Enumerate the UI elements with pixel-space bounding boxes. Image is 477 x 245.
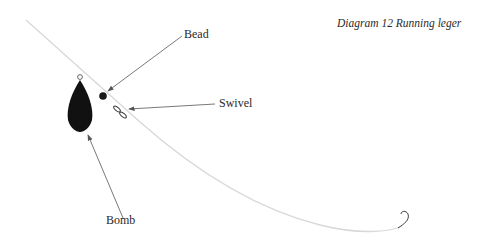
bead-icon — [99, 92, 107, 100]
bead-arrow — [108, 36, 182, 91]
hook-icon — [398, 211, 408, 228]
bomb-weight-icon — [68, 80, 93, 132]
swivel-label: Swivel — [219, 96, 252, 111]
swivel-icon — [113, 105, 127, 119]
diagram-caption: Diagram 12 Running leger — [337, 17, 461, 29]
running-leger-diagram — [0, 0, 477, 245]
bead-label: Bead — [184, 27, 209, 42]
bomb-arrow — [88, 135, 123, 218]
bomb-label: Bomb — [106, 213, 135, 228]
diagram-canvas: Bead Swivel Bomb Diagram 12 Running lege… — [0, 0, 477, 245]
swivel-arrow — [129, 104, 215, 109]
bomb-eye-icon — [78, 75, 83, 80]
